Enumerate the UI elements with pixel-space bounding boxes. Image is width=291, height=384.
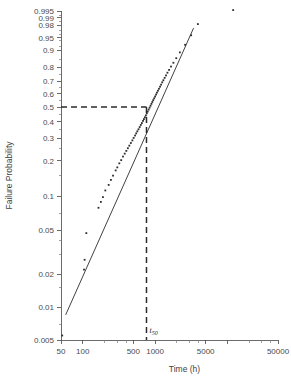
- data-point: [197, 23, 199, 25]
- data-point: [172, 62, 174, 64]
- data-point: [112, 175, 114, 177]
- data-point: [159, 86, 161, 88]
- y-tick-label-0.6: 0.6: [43, 90, 55, 99]
- data-point: [190, 34, 192, 36]
- x-axis-major-ticks: [61, 340, 278, 344]
- data-point: [136, 130, 138, 132]
- y-tick-label-0.3: 0.3: [43, 134, 55, 143]
- data-point: [131, 140, 133, 142]
- y-axis-tick-labels: 0.0050.010.020.050.10.20.30.40.50.60.70.…: [34, 7, 55, 345]
- y-axis-title: Failure Probability: [4, 141, 14, 210]
- x-axis-title: Time (h): [169, 364, 200, 374]
- data-point: [85, 232, 87, 234]
- data-point: [140, 124, 142, 126]
- y-tick-label-0.95: 0.95: [38, 34, 54, 43]
- data-point: [153, 97, 155, 99]
- data-point: [120, 159, 122, 161]
- x-tick-label-100: 100: [76, 347, 90, 356]
- y-tick-label-0.1: 0.1: [43, 192, 55, 201]
- data-point: [145, 114, 147, 116]
- weibull-probability-plot: 0.0050.010.020.050.10.20.30.40.50.60.70.…: [0, 0, 291, 384]
- data-point: [102, 196, 104, 198]
- data-point: [115, 170, 117, 172]
- t50-annotation-label: t50: [149, 326, 157, 336]
- data-point: [135, 132, 137, 134]
- data-point: [158, 88, 160, 90]
- data-point: [151, 103, 153, 105]
- data-point: [165, 75, 167, 77]
- data-point: [100, 201, 102, 203]
- x-axis-tick-labels: 501005001000500050000: [57, 347, 290, 356]
- data-point: [134, 135, 136, 137]
- data-point: [116, 166, 118, 168]
- y-tick-label-0.98: 0.98: [38, 21, 54, 30]
- data-point: [139, 126, 141, 128]
- data-point: [110, 179, 112, 181]
- data-point: [168, 69, 170, 71]
- x-tick-label-1000: 1000: [146, 347, 164, 356]
- data-point: [232, 9, 234, 11]
- x-tick-label-50000: 50000: [267, 347, 290, 356]
- data-point: [157, 90, 159, 92]
- y-tick-label-0.2: 0.2: [43, 157, 55, 166]
- data-point: [133, 137, 135, 139]
- data-point: [179, 51, 181, 53]
- y-axis-group: 0.0050.010.020.050.10.20.30.40.50.60.70.…: [4, 7, 61, 345]
- y-tick-label-0.02: 0.02: [38, 270, 54, 279]
- data-point: [151, 101, 153, 103]
- data-point: [152, 99, 154, 101]
- y-tick-label-0.8: 0.8: [43, 63, 55, 72]
- data-point: [138, 128, 140, 130]
- data-point: [108, 184, 110, 186]
- data-point: [170, 66, 172, 68]
- data-point: [154, 96, 156, 98]
- y-tick-label-0.7: 0.7: [43, 77, 55, 86]
- data-point: [98, 207, 100, 209]
- y-tick-label-0.9: 0.9: [43, 46, 55, 55]
- y-tick-label-0.4: 0.4: [43, 118, 55, 127]
- data-point: [146, 112, 148, 114]
- data-point: [104, 190, 106, 192]
- x-tick-label-500: 500: [127, 347, 141, 356]
- y-tick-label-0.5: 0.5: [43, 103, 55, 112]
- x-tick-label-5000: 5000: [197, 347, 215, 356]
- data-point: [167, 72, 169, 74]
- data-point: [144, 116, 146, 118]
- plot-canvas: 0.0050.010.020.050.10.20.30.40.50.60.70.…: [0, 0, 291, 384]
- y-tick-label-0.01: 0.01: [38, 303, 54, 312]
- y-tick-label-0.005: 0.005: [34, 336, 55, 345]
- data-point: [128, 145, 130, 147]
- data-point: [130, 142, 132, 144]
- data-point: [83, 269, 85, 271]
- data-point: [184, 44, 186, 46]
- data-point: [84, 259, 86, 261]
- data-point: [175, 57, 177, 59]
- data-point: [155, 94, 157, 96]
- data-point: [122, 156, 124, 158]
- data-points-group: [61, 9, 234, 336]
- data-point: [149, 107, 151, 109]
- data-point: [127, 147, 129, 149]
- data-point: [124, 153, 126, 155]
- data-point: [148, 109, 150, 111]
- data-point: [160, 84, 162, 86]
- data-point: [164, 77, 166, 79]
- x-tick-label-50: 50: [57, 347, 66, 356]
- x-axis-group: 501005001000500050000 Time (h): [57, 340, 290, 374]
- data-point: [142, 120, 144, 122]
- data-point: [125, 150, 127, 152]
- data-point: [150, 105, 152, 107]
- data-point: [118, 162, 120, 164]
- y-tick-label-0.05: 0.05: [38, 226, 54, 235]
- weibull-fit-line: [66, 28, 194, 315]
- data-point: [147, 111, 149, 113]
- data-point: [156, 92, 158, 94]
- data-point: [61, 335, 63, 337]
- y-tick-label-0.995: 0.995: [34, 7, 55, 16]
- data-point: [143, 118, 145, 120]
- data-point: [162, 79, 164, 81]
- data-point: [161, 81, 163, 83]
- data-point: [141, 122, 143, 124]
